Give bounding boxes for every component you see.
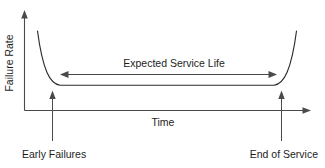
- x-axis-arrowhead-icon: [303, 107, 312, 114]
- expected-service-life-span-arrow: [60, 71, 277, 78]
- end-of-service-pointer: [278, 91, 284, 142]
- end-of-service-caption: End of Service: [250, 148, 318, 160]
- early-failures-pointer-head-icon: [49, 91, 55, 100]
- bathtub-curve-diagram: Failure Rate Time Expected Service Life …: [0, 0, 325, 168]
- expected-service-life-label: Expected Service Life: [123, 57, 225, 69]
- early-failures-caption: Early Failures: [22, 148, 86, 160]
- span-arrow-right-head-icon: [269, 71, 278, 78]
- x-axis: [25, 107, 312, 114]
- reliability-bathtub-chart: Failure Rate Time Expected Service Life …: [0, 0, 325, 168]
- y-axis: [21, 10, 28, 111]
- x-axis-label: Time: [152, 116, 175, 128]
- span-arrow-left-head-icon: [60, 71, 69, 78]
- y-axis-arrowhead-icon: [21, 10, 28, 19]
- early-failures-pointer: [49, 91, 55, 142]
- end-of-service-pointer-head-icon: [278, 91, 284, 100]
- y-axis-label: Failure Rate: [3, 34, 15, 91]
